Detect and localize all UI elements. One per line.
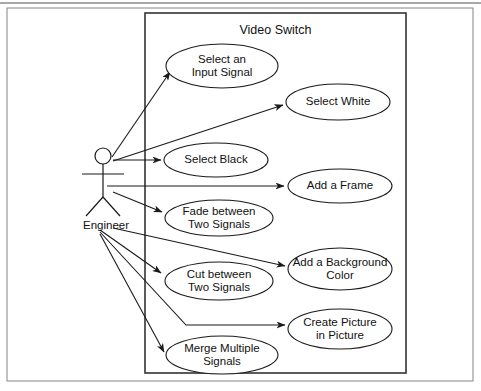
use-case-label: Color [326, 269, 354, 281]
use-case-label: Cut between [187, 268, 252, 280]
assoc-merge-multiple-signals [100, 234, 164, 352]
use-case-add-a-background-color[interactable]: Add a BackgroundColor [288, 248, 392, 290]
use-case-label: Add a Frame [307, 179, 373, 191]
use-case-create-picture-in-picture[interactable]: Create Picturein Picture [288, 309, 392, 349]
use-case-select-black[interactable]: Select Black [164, 143, 268, 177]
use-case-select-an-input-signal[interactable]: Select anInput Signal [166, 44, 278, 88]
use-case-merge-multiple-signals[interactable]: Merge MultipleSignals [166, 336, 278, 374]
use-case-label: Create Picture [303, 316, 377, 328]
use-case-label: Fade between [183, 205, 256, 217]
actor-left-leg-line [86, 197, 103, 216]
actor-label: Engineer [83, 219, 129, 231]
assoc-select-an-input-signal [112, 72, 170, 157]
use-case-label: Input Signal [192, 66, 253, 78]
assoc-fade-between-two-signals [113, 192, 162, 212]
system-boundary-title: Video Switch [239, 23, 311, 37]
use-case-cut-between-two-signals[interactable]: Cut betweenTwo Signals [165, 262, 273, 300]
actor-right-leg-line [103, 197, 120, 216]
use-case-label: Select an [198, 53, 246, 65]
use-case-select-white[interactable]: Select White [286, 84, 390, 120]
use-case-label: Select White [306, 95, 371, 107]
use-case-add-a-frame[interactable]: Add a Frame [288, 169, 392, 203]
use-case-label: Two Signals [188, 218, 250, 230]
use-case-fade-between-two-signals[interactable]: Fade betweenTwo Signals [165, 200, 273, 236]
use-case-label: Merge Multiple [184, 342, 259, 354]
use-case-label: Signals [203, 355, 241, 367]
use-case-diagram: Video Switch Engineer Select anInput Sig… [0, 0, 481, 391]
use-case-label: Select Black [184, 153, 248, 165]
use-case-label: Two Signals [188, 281, 250, 293]
use-case-label: Add a Background [293, 256, 388, 268]
diagram-canvas: Video Switch Engineer Select anInput Sig… [0, 0, 481, 391]
use-case-label: in Picture [316, 329, 364, 341]
actor-head-icon [95, 148, 111, 164]
